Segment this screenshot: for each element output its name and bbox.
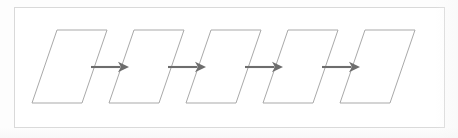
flowchart: [0, 0, 458, 138]
figure-canvas: [0, 0, 458, 138]
